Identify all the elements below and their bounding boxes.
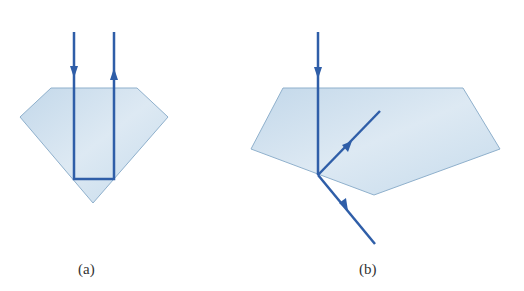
caption-b: (b)	[359, 261, 377, 278]
diamond-prism	[20, 88, 168, 203]
pentagon-prism	[251, 88, 500, 195]
figure-a	[20, 32, 168, 203]
arrow-up-icon	[110, 68, 118, 80]
arrow-down-icon	[314, 67, 322, 79]
caption-a: (a)	[78, 261, 95, 278]
figure-b	[251, 32, 500, 244]
arrow-down-right-icon	[339, 198, 348, 211]
arrow-down-icon	[70, 66, 78, 78]
diagram-canvas	[0, 0, 524, 291]
